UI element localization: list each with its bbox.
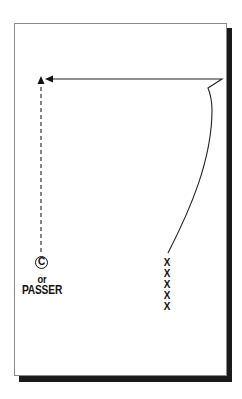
passer-label: PASSER [17,284,68,296]
x-marks-column: X X X X X [160,257,174,312]
passer-arrowhead-icon [38,76,45,84]
play-diagram [0,0,242,399]
player-route-line [50,79,222,253]
x-mark: X [161,301,174,312]
route-arrowhead-icon [45,76,53,83]
center-circle-icon: C [35,256,48,269]
